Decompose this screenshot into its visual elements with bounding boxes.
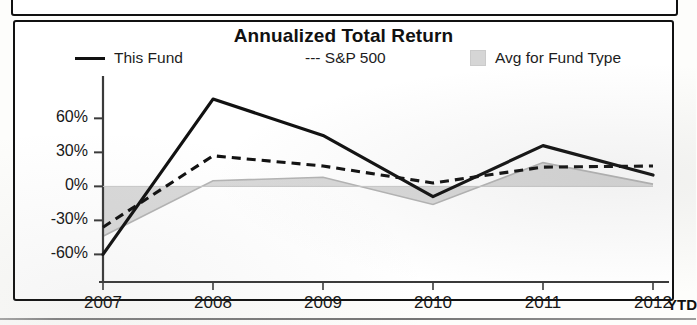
shaded-area-swatch-icon bbox=[470, 50, 486, 66]
chart-legend: This Fund --- S&P 500 Avg for Fund Type bbox=[15, 49, 672, 73]
chart-title: Annualized Total Return bbox=[15, 25, 672, 47]
y-tick-label: -60% bbox=[24, 244, 88, 262]
legend-item-this-fund: This Fund bbox=[75, 49, 183, 67]
x-tick-label: 2011 bbox=[513, 293, 573, 313]
x-axis bbox=[99, 282, 669, 290]
legend-label-this-fund: This Fund bbox=[114, 49, 183, 67]
x-tick-label: 2007 bbox=[73, 293, 133, 313]
bottom-divider bbox=[0, 318, 696, 320]
legend-item-avg-fund-type: Avg for Fund Type bbox=[470, 49, 621, 67]
plot-area: 60%30%0%-30%-60% 20072008200920102011201… bbox=[15, 72, 676, 303]
y-tick-label: 60% bbox=[24, 108, 88, 126]
legend-label-sp500: --- S&P 500 bbox=[305, 49, 386, 67]
y-tick-label: 0% bbox=[24, 176, 88, 194]
solid-line-swatch-icon bbox=[75, 57, 105, 60]
ytd-label: YTD bbox=[667, 296, 697, 313]
chart-svg bbox=[15, 72, 676, 303]
y-tick-label: -30% bbox=[24, 210, 88, 228]
y-axis bbox=[94, 76, 103, 282]
annualized-total-return-panel: Annualized Total Return This Fund --- S&… bbox=[13, 20, 674, 301]
legend-label-avg-fund-type: Avg for Fund Type bbox=[495, 49, 621, 67]
panel-above-partial bbox=[11, 0, 678, 16]
x-tick-label: 2008 bbox=[183, 293, 243, 313]
y-tick-label: 30% bbox=[24, 142, 88, 160]
x-tick-label: 2010 bbox=[403, 293, 463, 313]
legend-item-sp500: --- S&P 500 bbox=[305, 49, 386, 67]
x-tick-label: 2009 bbox=[293, 293, 353, 313]
